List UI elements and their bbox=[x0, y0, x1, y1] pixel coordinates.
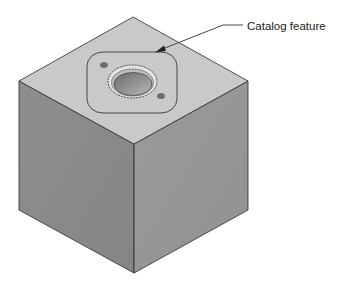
callout-label: Catalog feature bbox=[247, 20, 326, 32]
bore-hole bbox=[114, 73, 152, 96]
cad-figure: Catalog feature bbox=[0, 0, 344, 290]
bolt-hole-right-icon bbox=[157, 93, 164, 98]
bolt-hole-left-icon bbox=[100, 62, 107, 67]
block bbox=[19, 17, 248, 273]
